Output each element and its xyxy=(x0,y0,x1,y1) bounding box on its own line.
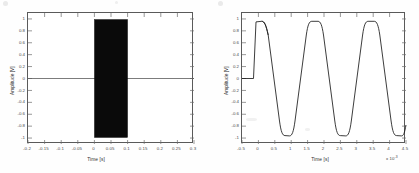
x-tick-label: 3 xyxy=(355,146,358,151)
x-tick-label: 2 xyxy=(322,146,325,151)
y-tick-label: -0.4 xyxy=(226,99,239,104)
plot-area-left xyxy=(27,12,193,143)
y-axis-title: Amplitude [V] xyxy=(10,66,15,95)
x-tick-label: 0.15 xyxy=(139,146,148,151)
x-tick-label: 1.5 xyxy=(303,146,309,151)
y-ticks-right-right xyxy=(402,19,406,138)
plot-svg-right xyxy=(242,13,406,144)
x-tick-label: 0.05 xyxy=(106,146,115,151)
y-tick-label: 0.4 xyxy=(14,51,25,56)
y-tick-label: 0.4 xyxy=(228,51,239,56)
scan-smudge xyxy=(246,118,257,121)
x-tick-label: 1 xyxy=(289,146,292,151)
figure-sheet: 1 0.8 0.6 0.4 0.2 0 -0.2 -0.4 -0.6 -0.8 … xyxy=(0,0,419,173)
x-tick-label: 0.3 xyxy=(190,146,196,151)
y-tick-label: -1 xyxy=(14,135,25,140)
panel-zoomed-signal: 1 0.8 0.6 0.4 0.2 0 -0.2 -0.4 -0.6 -0.8 … xyxy=(210,0,419,173)
y-tick-label: 0.8 xyxy=(228,27,239,32)
y-tick-label: 0.2 xyxy=(228,63,239,68)
x-tick-label: -0.5 xyxy=(237,146,245,151)
y-axis-title: Amplitude [V] xyxy=(224,66,229,95)
y-tick-label: 1 xyxy=(230,16,239,21)
sine-burst-trace-continuation xyxy=(262,21,269,35)
y-tick-label: -1 xyxy=(228,135,239,140)
x-tick-label: 0.1 xyxy=(123,146,129,151)
scan-artifact-icon xyxy=(3,1,8,6)
burst-region xyxy=(94,20,127,138)
x-tick-label: -0.1 xyxy=(56,146,64,151)
x-ticks-top-left xyxy=(45,13,178,17)
y-tick-label: -0.4 xyxy=(12,99,25,104)
y-tick-label: 0.6 xyxy=(14,39,25,44)
x-axis-exponent: x 10-3 xyxy=(386,155,398,161)
x-tick-label: 4 xyxy=(387,146,390,151)
x-tick-label: 4.5 xyxy=(402,146,408,151)
x-ticks-left xyxy=(28,140,194,144)
y-tick-label: 0 xyxy=(230,75,239,80)
plot-svg-left xyxy=(28,13,194,144)
sine-burst-trace xyxy=(242,21,406,136)
scan-artifact-icon xyxy=(218,1,223,6)
x-tick-label: 0.2 xyxy=(157,146,163,151)
y-tick-label: 0.6 xyxy=(228,39,239,44)
x-tick-label: 2.5 xyxy=(336,146,342,151)
x-axis-title: Time [s] xyxy=(311,157,329,162)
scan-artifact-icon xyxy=(115,1,118,4)
x-tick-label: 3.5 xyxy=(369,146,375,151)
plot-area-right xyxy=(241,12,405,143)
x-tick-label: 0.5 xyxy=(271,146,277,151)
panel-full-signal: 1 0.8 0.6 0.4 0.2 0 -0.2 -0.4 -0.6 -0.8 … xyxy=(0,0,209,173)
y-tick-label: 1 xyxy=(16,16,25,21)
x-tick-label: -0.15 xyxy=(38,146,48,151)
x-tick-label: 0 xyxy=(256,146,259,151)
x-tick-label: -0.05 xyxy=(72,146,82,151)
y-tick-label: -0.6 xyxy=(12,111,25,116)
y-tick-label: -0.6 xyxy=(226,111,239,116)
y-tick-label: 0.2 xyxy=(14,63,25,68)
y-tick-label: -0.8 xyxy=(226,123,239,128)
x-tick-label: -0.2 xyxy=(23,146,31,151)
y-tick-label: 0 xyxy=(16,75,25,80)
exponent-power: -3 xyxy=(395,155,398,159)
x-axis-title: Time [s] xyxy=(87,157,105,162)
x-tick-label: 0.25 xyxy=(172,146,181,151)
y-tick-label: -0.8 xyxy=(12,123,25,128)
exponent-prefix: x 10 xyxy=(386,156,395,161)
y-tick-label: 0.8 xyxy=(14,27,25,32)
x-ticks-top-right xyxy=(258,13,389,17)
scan-smudge xyxy=(305,128,310,131)
x-ticks-right xyxy=(242,140,406,144)
x-tick-label: 0 xyxy=(92,146,95,151)
